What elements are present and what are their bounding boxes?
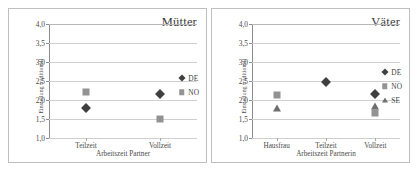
legend-label-left-NO: NO xyxy=(188,88,199,97)
y-tick-label-left-5: 3,5 xyxy=(36,39,45,48)
x-axis-label-left: Arbeitszeit Partner xyxy=(49,150,197,158)
gridline-left-5 xyxy=(49,43,197,44)
legend-left: DENO xyxy=(177,71,199,99)
y-tick-label-right-3: 2,5 xyxy=(239,77,248,86)
data-point-right-NO-0 xyxy=(273,92,280,99)
legend-right: DENOSE xyxy=(380,65,402,107)
y-tick-mark-left-2 xyxy=(46,100,49,101)
y-tick-mark-right-0 xyxy=(249,138,252,139)
y-tick-label-right-6: 4,0 xyxy=(239,20,248,29)
y-tick-label-left-1: 1,5 xyxy=(36,115,45,124)
gridline-left-0 xyxy=(49,138,197,139)
y-tick-mark-right-6 xyxy=(249,24,252,25)
y-tick-mark-right-4 xyxy=(249,62,252,63)
legend-label-right-SE: SE xyxy=(391,96,400,105)
y-tick-mark-left-0 xyxy=(46,138,49,139)
x-tick-label-right-0: Hausfrau xyxy=(263,142,289,150)
x-tick-label-left-1: Vollzeit xyxy=(149,142,171,150)
legend-triangle-icon xyxy=(380,96,389,105)
gridline-left-6 xyxy=(49,24,197,25)
legend-label-right-DE: DE xyxy=(391,68,401,77)
x-tick-label-right-2: Vollzeit xyxy=(364,142,386,150)
data-point-left-DE-0 xyxy=(81,103,91,113)
x-tick-mark-right-1 xyxy=(326,138,327,141)
gridline-right-2 xyxy=(252,100,400,101)
y-tick-label-right-4: 3,0 xyxy=(239,58,248,67)
y-tick-label-left-3: 2,5 xyxy=(36,77,45,86)
legend-square-icon xyxy=(380,82,389,91)
x-tick-label-left-0: Teilzeit xyxy=(75,142,96,150)
plot-area-left: 1,01,52,02,53,03,54,0TeilzeitVollzeit xyxy=(49,24,197,138)
gridline-right-4 xyxy=(252,62,400,63)
legend-item-right-SE[interactable]: SE xyxy=(380,93,402,107)
y-tick-mark-right-2 xyxy=(249,100,252,101)
y-tick-mark-left-1 xyxy=(46,119,49,120)
gridline-left-2 xyxy=(49,100,197,101)
data-point-right-DE-2 xyxy=(370,89,380,99)
legend-item-right-NO[interactable]: NO xyxy=(380,79,402,93)
y-tick-label-right-2: 2,0 xyxy=(239,96,248,105)
y-tick-mark-left-3 xyxy=(46,81,49,82)
legend-diamond-icon xyxy=(380,68,389,77)
x-tick-mark-right-2 xyxy=(375,138,376,141)
data-point-right-SE-2 xyxy=(371,102,379,109)
data-point-left-DE-1 xyxy=(155,89,165,99)
data-point-right-DE-1 xyxy=(321,77,331,87)
panel-vaeter: Väter Einstellung traditionell 1,01,52,0… xyxy=(211,8,410,163)
y-tick-mark-left-5 xyxy=(46,43,49,44)
legend-diamond-icon xyxy=(177,74,186,83)
x-tick-label-right-1: Teilzeit xyxy=(315,142,336,150)
y-tick-mark-right-3 xyxy=(249,81,252,82)
y-tick-label-left-2: 2,0 xyxy=(36,96,45,105)
y-tick-mark-left-6 xyxy=(46,24,49,25)
x-tick-mark-right-0 xyxy=(277,138,278,141)
data-point-left-NO-0 xyxy=(83,89,90,96)
y-tick-label-right-1: 1,5 xyxy=(239,115,248,124)
x-tick-mark-left-0 xyxy=(86,138,87,141)
x-tick-mark-left-1 xyxy=(160,138,161,141)
data-point-left-NO-1 xyxy=(157,115,164,122)
y-tick-mark-right-5 xyxy=(249,43,252,44)
y-tick-label-left-4: 3,0 xyxy=(36,58,45,67)
y-tick-label-right-0: 1,0 xyxy=(239,134,248,143)
legend-item-left-DE[interactable]: DE xyxy=(177,71,199,85)
legend-item-right-DE[interactable]: DE xyxy=(380,65,402,79)
y-tick-label-left-6: 4,0 xyxy=(36,20,45,29)
gridline-right-1 xyxy=(252,119,400,120)
gridline-left-4 xyxy=(49,62,197,63)
y-tick-label-right-5: 3,5 xyxy=(239,39,248,48)
plot-area-right: 1,01,52,02,53,03,54,0HausfrauTeilzeitVol… xyxy=(252,24,400,138)
y-tick-mark-right-1 xyxy=(249,119,252,120)
legend-item-left-NO[interactable]: NO xyxy=(177,85,199,99)
legend-label-right-NO: NO xyxy=(391,82,402,91)
data-point-right-NO-2 xyxy=(372,109,379,116)
legend-label-left-DE: DE xyxy=(188,74,198,83)
figure-two-panel-scatter: Mütter Einstellung traditionell 1,01,52,… xyxy=(0,0,418,172)
y-tick-label-left-0: 1,0 xyxy=(36,134,45,143)
data-point-right-SE-0 xyxy=(273,105,281,112)
y-tick-mark-left-4 xyxy=(46,62,49,63)
gridline-right-6 xyxy=(252,24,400,25)
gridline-left-3 xyxy=(49,81,197,82)
gridline-right-5 xyxy=(252,43,400,44)
panel-muetter: Mütter Einstellung traditionell 1,01,52,… xyxy=(8,8,207,163)
x-axis-label-right: Arbeitszeit Partnerin xyxy=(252,150,400,158)
legend-square-icon xyxy=(177,88,186,97)
gridline-left-1 xyxy=(49,119,197,120)
